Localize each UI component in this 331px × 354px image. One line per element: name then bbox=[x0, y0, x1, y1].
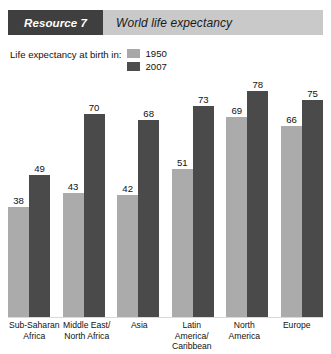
resource-tag: Resource 7 bbox=[8, 10, 103, 35]
bar-2007 bbox=[138, 120, 159, 317]
bar-chart-plot: 384943704268517369786675 bbox=[0, 60, 331, 318]
chart-baseline bbox=[8, 317, 323, 318]
x-axis-label: Middle East/ North Africa bbox=[61, 320, 114, 352]
bar-value-label: 66 bbox=[286, 115, 297, 125]
bar-wrapper: 43 bbox=[63, 60, 84, 317]
x-axis-label: Europe bbox=[271, 320, 324, 352]
bar-value-label: 49 bbox=[34, 164, 45, 174]
bar-1950 bbox=[8, 207, 29, 317]
bar-group: 3849 bbox=[8, 60, 50, 317]
bar-group: 4268 bbox=[117, 60, 159, 317]
x-axis-label: Latin America/ Caribbean bbox=[166, 320, 219, 352]
x-axis-label: North America bbox=[218, 320, 271, 352]
bar-1950 bbox=[117, 195, 138, 317]
bar-wrapper: 73 bbox=[193, 60, 214, 317]
bar-groups: 384943704268517369786675 bbox=[8, 60, 323, 317]
bar-wrapper: 49 bbox=[29, 60, 50, 317]
legend-item-1950: 1950 bbox=[127, 48, 166, 59]
bar-group: 5173 bbox=[172, 60, 214, 317]
bar-value-label: 51 bbox=[177, 158, 188, 168]
bar-wrapper: 66 bbox=[281, 60, 302, 317]
legend-swatch-1950-icon bbox=[127, 49, 140, 58]
bar-value-label: 42 bbox=[122, 184, 133, 194]
legend-caption: Life expectancy at birth in: bbox=[10, 48, 121, 60]
x-axis-labels: Sub-Saharan AfricaMiddle East/ North Afr… bbox=[8, 320, 323, 352]
bar-wrapper: 42 bbox=[117, 60, 138, 317]
bar-value-label: 70 bbox=[89, 103, 100, 113]
legend-label-1950: 1950 bbox=[145, 48, 166, 59]
bar-wrapper: 75 bbox=[302, 60, 323, 317]
x-axis-label: Asia bbox=[113, 320, 166, 352]
bar-2007 bbox=[302, 100, 323, 317]
bar-group: 6978 bbox=[226, 60, 268, 317]
bar-wrapper: 70 bbox=[84, 60, 105, 317]
bar-value-label: 43 bbox=[68, 182, 79, 192]
bar-2007 bbox=[29, 175, 50, 317]
bar-wrapper: 38 bbox=[8, 60, 29, 317]
figure-header: Resource 7 World life expectancy bbox=[8, 10, 323, 35]
bar-1950 bbox=[281, 126, 302, 317]
bar-wrapper: 78 bbox=[247, 60, 268, 317]
bar-1950 bbox=[172, 169, 193, 317]
bar-wrapper: 51 bbox=[172, 60, 193, 317]
bar-1950 bbox=[63, 193, 84, 317]
bar-group: 4370 bbox=[63, 60, 105, 317]
bar-value-label: 38 bbox=[13, 196, 24, 206]
figure-title: World life expectancy bbox=[103, 10, 323, 35]
bar-value-label: 78 bbox=[253, 80, 264, 90]
resource-figure: Resource 7 World life expectancy Life ex… bbox=[0, 0, 331, 354]
bar-value-label: 68 bbox=[143, 109, 154, 119]
bar-value-label: 73 bbox=[198, 95, 209, 105]
x-axis-label: Sub-Saharan Africa bbox=[8, 320, 61, 352]
bar-2007 bbox=[84, 114, 105, 317]
bar-value-label: 75 bbox=[307, 89, 318, 99]
bar-1950 bbox=[226, 117, 247, 317]
bar-2007 bbox=[193, 106, 214, 317]
bar-wrapper: 68 bbox=[138, 60, 159, 317]
bar-value-label: 69 bbox=[232, 106, 243, 116]
bar-wrapper: 69 bbox=[226, 60, 247, 317]
bar-group: 6675 bbox=[281, 60, 323, 317]
bar-2007 bbox=[247, 91, 268, 317]
